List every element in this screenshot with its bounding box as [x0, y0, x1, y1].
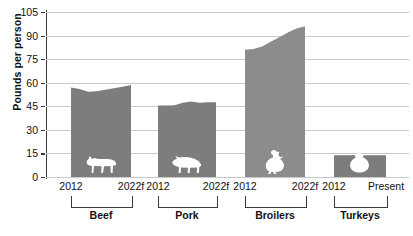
x-tick-label-pork-start: 2012 — [146, 180, 169, 192]
y-tick-label: 30 — [12, 124, 38, 136]
y-tick-label: 15 — [12, 147, 38, 159]
x-tick-label-broilers-end: 2022f — [292, 180, 318, 192]
x-tick-label-broilers-start: 2012 — [233, 180, 256, 192]
group-label-turkeys: Turkeys — [340, 209, 380, 221]
x-tick-label-beef-start: 2012 — [59, 180, 82, 192]
area-series-pork — [158, 12, 216, 177]
x-tick-label-turkeys-start: 2012 — [322, 180, 345, 192]
y-tick-label: 75 — [12, 53, 38, 65]
y-tick-label: 60 — [12, 77, 38, 89]
y-tick-label: 90 — [12, 30, 38, 42]
x-tick-label-turkeys-end: Present — [368, 180, 404, 192]
group-label-beef: Beef — [90, 209, 113, 221]
y-tick-mark — [41, 177, 45, 178]
y-tick-label: 105 — [12, 6, 38, 18]
y-tick-mark — [41, 36, 45, 37]
area-series-beef — [71, 12, 131, 177]
group-bracket-beef — [71, 196, 133, 208]
y-tick-label: 45 — [12, 100, 38, 112]
chart-figure: Pounds per person 0153045607590105 20122… — [0, 0, 413, 236]
y-tick-mark — [41, 12, 45, 13]
group-bracket-turkeys — [334, 196, 388, 208]
x-tick-label-pork-end: 2022f — [203, 180, 229, 192]
group-label-pork: Pork — [175, 209, 198, 221]
area-series-broilers — [245, 12, 305, 177]
y-tick-mark — [41, 106, 45, 107]
plot-area: 0153045607590105 — [46, 12, 409, 177]
group-bracket-broilers — [245, 196, 307, 208]
area-series-turkeys — [334, 12, 386, 177]
y-tick-mark — [41, 83, 45, 84]
y-tick-mark — [41, 59, 45, 60]
gridline — [46, 177, 409, 178]
group-label-broilers: Broilers — [255, 209, 295, 221]
y-tick-mark — [41, 130, 45, 131]
y-tick-label: 0 — [12, 171, 38, 183]
x-tick-label-beef-end: 2022f — [118, 180, 144, 192]
group-bracket-pork — [158, 196, 218, 208]
y-tick-mark — [41, 153, 45, 154]
